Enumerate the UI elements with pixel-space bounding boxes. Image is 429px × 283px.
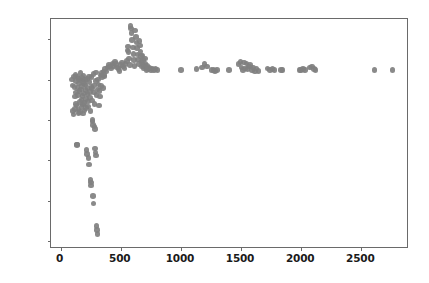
data-point [88, 108, 94, 114]
data-point [90, 193, 96, 199]
y-tick-mark [48, 241, 52, 242]
x-tick-mark [181, 247, 182, 251]
y-tick-mark [48, 160, 52, 161]
data-point [86, 162, 92, 168]
plot-data-area [51, 19, 407, 247]
x-tick-mark [301, 247, 302, 251]
y-tick-mark [48, 39, 52, 40]
x-tick-label: 0 [56, 252, 63, 264]
data-point [155, 67, 161, 73]
scatter-plot-figure: 05001000150020002500 350355360365370375 [0, 0, 429, 283]
data-point [178, 67, 184, 73]
data-point [97, 94, 103, 100]
x-tick-label: 2000 [286, 252, 314, 264]
data-point [280, 67, 286, 73]
data-point [74, 142, 80, 148]
data-point [88, 183, 94, 189]
x-tick-mark [61, 247, 62, 251]
data-point [214, 67, 220, 73]
data-point [93, 153, 99, 159]
data-point [132, 28, 138, 34]
data-point [372, 67, 378, 73]
data-point [137, 43, 143, 49]
data-point [86, 155, 92, 161]
x-tick-mark [241, 247, 242, 251]
y-tick-mark [48, 201, 52, 202]
data-point [313, 67, 319, 73]
y-tick-mark [48, 80, 52, 81]
data-point [96, 103, 102, 109]
plot-axes [50, 18, 408, 248]
y-tick-mark [48, 120, 52, 121]
data-point [272, 67, 278, 73]
x-tick-mark [361, 247, 362, 251]
data-point [92, 126, 98, 132]
data-point [95, 231, 101, 237]
x-tick-mark [121, 247, 122, 251]
x-tick-label: 1500 [226, 252, 254, 264]
data-point [100, 85, 106, 91]
data-point [102, 74, 108, 80]
data-point [226, 67, 232, 73]
x-tick-label: 500 [109, 252, 130, 264]
data-point [256, 68, 262, 74]
data-point [91, 201, 97, 207]
x-tick-label: 1000 [166, 252, 194, 264]
x-tick-label: 2500 [346, 252, 374, 264]
data-point [390, 67, 396, 73]
